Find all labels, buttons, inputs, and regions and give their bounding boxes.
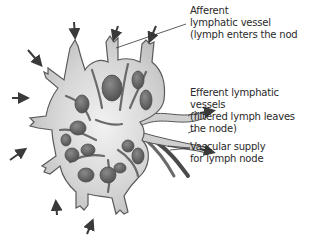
label-vascular-line1: Vascular supply — [190, 141, 265, 153]
label-vascular: Vascular supply for lymph node — [190, 141, 265, 165]
label-afferent-line3: (lymph enters the node) — [190, 29, 298, 41]
label-efferent-line1: Efferent lymphatic — [190, 87, 295, 99]
label-afferent: Afferent lymphatic vessel (lymph enters … — [190, 5, 298, 41]
label-efferent-line2: vessels — [190, 99, 295, 111]
lymph-node-body — [30, 36, 165, 214]
label-vascular-line2: for lymph node — [190, 153, 265, 165]
label-efferent-line3: (filtered lymph leaves — [190, 111, 295, 123]
label-afferent-line2: lymphatic vessel — [190, 17, 298, 29]
label-efferent-line4: the node) — [190, 123, 295, 135]
label-afferent-line1: Afferent — [190, 5, 298, 17]
label-efferent: Efferent lymphatic vessels (filtered lym… — [190, 87, 295, 135]
